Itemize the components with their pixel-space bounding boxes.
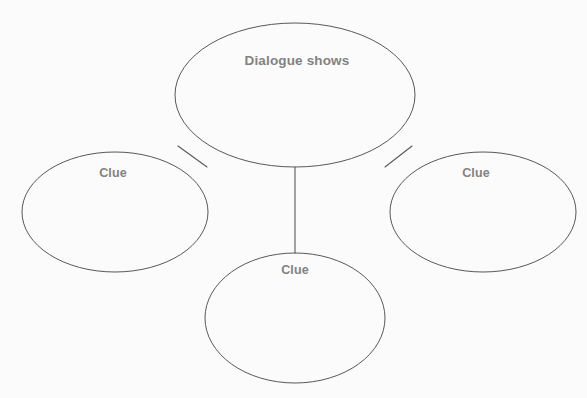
connector-center-to-right[interactable] — [385, 146, 412, 167]
node-clue-left-label: Clue — [99, 166, 127, 180]
connector-group — [178, 146, 412, 253]
node-central-dialogue-shows[interactable] — [175, 23, 415, 167]
connector-center-to-left[interactable] — [178, 146, 207, 167]
node-clue-bottom-label: Clue — [281, 263, 309, 277]
node-central-label: Dialogue shows — [245, 53, 350, 68]
node-clue-right-label: Clue — [462, 166, 490, 180]
node-group — [22, 23, 576, 383]
diagram-canvas: Dialogue shows Clue Clue Clue — [0, 0, 587, 398]
